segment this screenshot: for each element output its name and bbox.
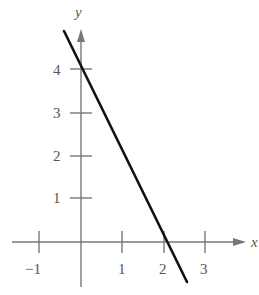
y-tick-label: 4 bbox=[53, 62, 61, 78]
chart: −1 1 2 3 4 3 2 1 x y bbox=[0, 0, 259, 295]
y-axis-label: y bbox=[73, 4, 82, 20]
y-tick-label: 2 bbox=[53, 148, 61, 164]
x-tick-label: −1 bbox=[25, 261, 41, 277]
y-tick-label: 1 bbox=[53, 190, 61, 206]
x-tick-label: 3 bbox=[200, 261, 208, 277]
x-axis-label: x bbox=[250, 234, 258, 250]
x-tick-label: 1 bbox=[118, 261, 126, 277]
x-tick-label: 2 bbox=[159, 261, 167, 277]
y-tick-label: 3 bbox=[53, 105, 61, 121]
y-axis-arrow-icon bbox=[77, 29, 85, 42]
x-axis-arrow-icon bbox=[233, 238, 246, 246]
